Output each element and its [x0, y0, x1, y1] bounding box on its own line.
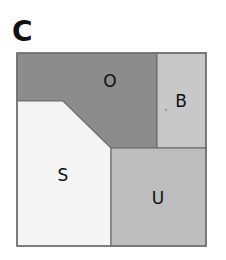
marker-dot [165, 109, 167, 111]
region-b-label: B [175, 91, 187, 111]
region-u-label: U [152, 188, 164, 208]
region-diagram: O B S U [0, 0, 226, 260]
region-o-label: O [103, 71, 116, 91]
region-s-label: S [58, 165, 69, 185]
